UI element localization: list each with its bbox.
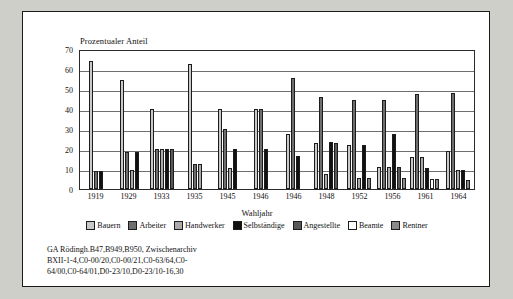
bar xyxy=(150,109,154,189)
bar xyxy=(223,129,227,189)
bar xyxy=(188,64,192,189)
legend-item[interactable]: Bauern xyxy=(86,221,120,230)
bar xyxy=(357,178,361,189)
bar xyxy=(446,151,450,189)
bar xyxy=(314,143,318,189)
bar-group xyxy=(310,51,343,189)
bar xyxy=(367,178,371,189)
bar xyxy=(291,78,295,189)
bar-group xyxy=(113,51,146,189)
x-axis-title: Wahljahr xyxy=(23,208,491,218)
x-tick-label: 1961 xyxy=(409,192,442,201)
bar xyxy=(435,179,439,189)
legend-item[interactable]: Handwerker xyxy=(174,221,225,230)
bar xyxy=(410,157,414,189)
bar xyxy=(451,93,455,189)
legend-label: Rentner xyxy=(402,221,427,230)
legend-swatch-icon xyxy=(174,221,183,230)
bar xyxy=(387,167,391,189)
y-tick-label: 50 xyxy=(65,86,73,95)
legend-item[interactable]: Angestellte xyxy=(293,221,340,230)
bar xyxy=(296,156,300,189)
legend-label: Handwerker xyxy=(185,221,225,230)
y-tick-label: 0 xyxy=(69,186,73,195)
bar-group xyxy=(244,51,277,189)
bar xyxy=(466,180,470,189)
x-tick-label: 1935 xyxy=(178,192,211,201)
x-tick-label: 1945 xyxy=(211,192,244,201)
bar xyxy=(425,168,429,189)
bar xyxy=(402,178,406,189)
legend-item[interactable]: Arbeiter xyxy=(128,221,166,230)
y-axis-title: Prozentualer Anteil xyxy=(80,36,148,46)
bar-group xyxy=(408,51,441,189)
legend-label: Beamte xyxy=(359,221,383,230)
bar xyxy=(120,80,124,189)
y-tick-label: 40 xyxy=(65,106,73,115)
bar-group xyxy=(178,51,211,189)
source-note-line-2: BXII-1-4,C0-00/20,C0-00/21,C0-63/64,C0- xyxy=(47,255,467,266)
bar xyxy=(392,134,396,189)
chart-legend: BauernArbeiterHandwerkerSelbständigeAnge… xyxy=(23,221,491,230)
bar xyxy=(347,145,351,189)
source-note: GA Rödingh.B47,B949,B950, Zwischenarchiv… xyxy=(47,244,467,277)
bar xyxy=(329,142,333,189)
bar xyxy=(193,164,197,189)
bar xyxy=(456,170,460,189)
source-note-line-3: 64/00,C0-64/01,D0-23/10,D0-23/10-16,30 xyxy=(47,266,467,277)
legend-swatch-icon xyxy=(348,221,357,230)
bar xyxy=(286,134,290,189)
bar xyxy=(89,61,93,189)
bar-group xyxy=(343,51,376,189)
bar xyxy=(377,167,381,189)
x-tick-label: 1964 xyxy=(442,192,475,201)
legend-swatch-icon xyxy=(86,221,95,230)
bar xyxy=(264,149,268,189)
chart-area: Prozentualer Anteil 010203040506070 1919… xyxy=(23,12,491,288)
bar xyxy=(324,174,328,189)
bar-group xyxy=(277,51,310,189)
legend-label: Selbständige xyxy=(244,221,285,230)
y-tick-label: 30 xyxy=(65,126,73,135)
bar xyxy=(160,149,164,189)
bar xyxy=(420,157,424,189)
bar xyxy=(259,109,263,189)
chart-card: Prozentualer Anteil 010203040506070 1919… xyxy=(22,11,490,287)
legend-swatch-icon xyxy=(391,221,400,230)
bar xyxy=(155,149,159,189)
legend-item[interactable]: Beamte xyxy=(348,221,383,230)
legend-item[interactable]: Selbständige xyxy=(233,221,285,230)
legend-label: Bauern xyxy=(97,221,120,230)
x-tick-label: 1948 xyxy=(310,192,343,201)
legend-label: Angestellte xyxy=(304,221,340,230)
y-tick-label: 20 xyxy=(65,146,73,155)
bar xyxy=(228,168,232,189)
legend-item[interactable]: Rentner xyxy=(391,221,427,230)
bar xyxy=(415,94,419,189)
x-tick-label: 1929 xyxy=(112,192,145,201)
x-tick-label: 1946 xyxy=(244,192,277,201)
legend-swatch-icon xyxy=(293,221,302,230)
legend-label: Arbeiter xyxy=(139,221,166,230)
legend-swatch-icon xyxy=(233,221,242,230)
bar-group xyxy=(80,51,113,189)
bar xyxy=(218,109,222,189)
screenshot-root: Prozentualer Anteil 010203040506070 1919… xyxy=(0,0,513,299)
x-tick-label: 1919 xyxy=(79,192,112,201)
bar xyxy=(382,100,386,189)
bar xyxy=(165,149,169,189)
x-tick-label: 1946 xyxy=(277,192,310,201)
y-axis-tick-labels: 010203040506070 xyxy=(23,50,79,190)
x-tick-label: 1956 xyxy=(376,192,409,201)
bar xyxy=(461,170,465,189)
bar-group xyxy=(211,51,244,189)
bar xyxy=(362,145,366,189)
legend-swatch-icon xyxy=(128,221,137,230)
bar xyxy=(99,171,103,189)
source-note-line-1: GA Rödingh.B47,B949,B950, Zwischenarchiv xyxy=(47,244,467,255)
y-tick-label: 60 xyxy=(65,66,73,75)
bar xyxy=(135,152,139,189)
x-tick-label: 1952 xyxy=(343,192,376,201)
bar-groups xyxy=(80,51,474,189)
bar-group xyxy=(375,51,408,189)
